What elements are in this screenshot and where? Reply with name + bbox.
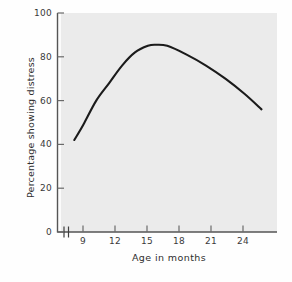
chart-figure: 100 80 60 40 20 0 9 12 15 18 21 24 Perce… [0, 0, 292, 282]
y-axis-ticks [58, 13, 65, 232]
xtick-label-15: 15 [141, 236, 153, 246]
ytick-label-100: 100 [18, 8, 52, 18]
xtick-label-18: 18 [173, 236, 185, 246]
x-axis-ticks [83, 226, 243, 233]
xtick-label-24: 24 [237, 236, 249, 246]
data-series-line [74, 45, 261, 140]
ytick-label-0: 0 [18, 227, 52, 237]
xtick-label-9: 9 [80, 236, 86, 246]
x-axis-title: Age in months [61, 252, 277, 263]
xtick-label-21: 21 [205, 236, 217, 246]
xtick-label-12: 12 [109, 236, 121, 246]
y-axis-title: Percentage showing distress [25, 38, 36, 218]
